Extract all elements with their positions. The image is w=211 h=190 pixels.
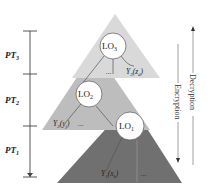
lo1-ellipsis: ... [141,169,147,178]
lo2-output: Y2(yj) [53,119,70,129]
encryption-label: Encryption [173,84,182,120]
lo2-ellipsis: ... [78,119,84,128]
lo3-ellipsis: ... [106,67,112,76]
decryption-label: Decryption [188,74,197,110]
pt3-label: PT3 [5,50,19,61]
pt1-label: PT1 [5,145,19,156]
partition-axis [23,31,37,177]
pt2-label: PT2 [5,95,19,106]
lo3-output: Y3(zd) [126,67,144,77]
lo1-output: Y1(xk) [101,169,119,179]
layered-onion-diagram: PT3 PT2 PT1 LO3 LO2 LO1 ... Y3(zd) Y2(yj… [0,0,211,190]
